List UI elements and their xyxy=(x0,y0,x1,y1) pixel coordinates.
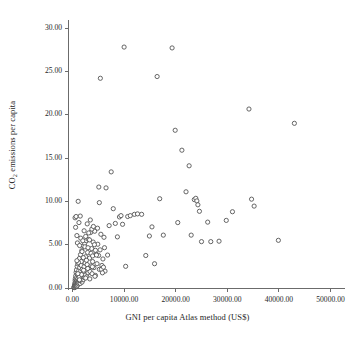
data-point xyxy=(184,190,188,194)
data-point xyxy=(93,248,97,252)
data-point xyxy=(95,226,99,230)
data-point xyxy=(84,276,88,280)
data-point xyxy=(252,204,256,208)
data-point xyxy=(144,253,148,257)
data-point xyxy=(91,224,95,228)
data-point xyxy=(100,271,104,275)
data-point xyxy=(77,220,81,224)
data-point xyxy=(94,253,98,257)
data-point xyxy=(155,74,159,78)
data-point xyxy=(187,164,191,168)
data-point xyxy=(88,218,92,222)
data-point xyxy=(176,220,180,224)
data-point xyxy=(292,121,296,125)
data-point xyxy=(170,46,174,50)
data-point xyxy=(199,240,203,244)
data-point xyxy=(93,274,97,278)
data-point xyxy=(92,243,96,247)
data-point xyxy=(197,209,201,213)
data-point xyxy=(206,220,210,224)
data-point xyxy=(98,248,102,252)
data-point xyxy=(161,233,165,237)
axis-tick-marks xyxy=(65,28,331,292)
data-point xyxy=(115,235,119,239)
data-point xyxy=(78,214,82,218)
data-point xyxy=(74,214,78,218)
data-point xyxy=(180,148,184,152)
data-point xyxy=(98,76,102,80)
data-point xyxy=(276,238,280,242)
data-point xyxy=(84,234,88,238)
scatter-plot-figure: CO2 emissions per capita GNI per capita … xyxy=(0,0,357,338)
data-point xyxy=(101,265,105,269)
data-point xyxy=(111,207,115,211)
data-point xyxy=(80,250,84,254)
data-point xyxy=(88,277,92,281)
data-point xyxy=(75,233,79,237)
data-point xyxy=(86,246,90,250)
data-point xyxy=(209,240,213,244)
data-point xyxy=(86,266,90,270)
data-point xyxy=(249,197,253,201)
data-point xyxy=(173,128,177,132)
data-point xyxy=(247,107,251,111)
data-point xyxy=(119,214,123,218)
data-point xyxy=(196,203,200,207)
data-point xyxy=(217,239,221,243)
data-point xyxy=(113,221,117,225)
data-point xyxy=(91,259,95,263)
data-point xyxy=(102,246,106,250)
data-point xyxy=(90,265,94,269)
data-point xyxy=(150,225,154,229)
data-point xyxy=(109,170,113,174)
data-point xyxy=(101,257,105,261)
data-point xyxy=(81,268,85,272)
data-point xyxy=(74,225,78,229)
data-point xyxy=(152,262,156,266)
data-point xyxy=(75,259,79,263)
data-point xyxy=(120,222,124,226)
axis-spines xyxy=(67,20,346,290)
data-point xyxy=(102,235,106,239)
data-point xyxy=(76,272,80,276)
data-point xyxy=(87,231,91,235)
data-point xyxy=(135,212,139,216)
data-point xyxy=(97,185,101,189)
data-point xyxy=(189,233,193,237)
plot-canvas xyxy=(0,0,357,338)
data-point xyxy=(87,238,91,242)
data-point xyxy=(105,253,109,257)
data-point xyxy=(140,212,144,216)
data-point xyxy=(124,264,128,268)
data-point xyxy=(85,222,89,226)
data-point xyxy=(81,239,85,243)
data-point xyxy=(77,278,81,282)
data-points-layer xyxy=(72,45,297,290)
data-point xyxy=(128,214,132,218)
data-point xyxy=(97,201,101,205)
data-point xyxy=(104,186,108,190)
data-point xyxy=(122,45,126,49)
data-point xyxy=(224,218,228,222)
data-point xyxy=(95,262,99,266)
data-point xyxy=(84,258,88,262)
data-point xyxy=(107,224,111,228)
data-point xyxy=(230,210,234,214)
data-point xyxy=(82,229,86,233)
data-point xyxy=(147,234,151,238)
data-point xyxy=(78,243,82,247)
data-point xyxy=(158,197,162,201)
data-point xyxy=(76,199,80,203)
